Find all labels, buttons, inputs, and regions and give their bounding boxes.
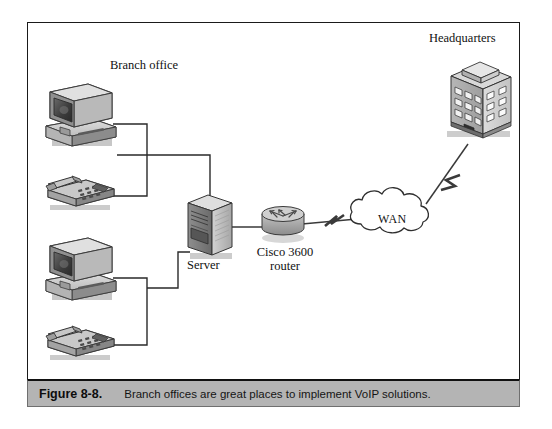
label-router: Cisco 3600 router [245, 245, 325, 273]
figure-caption-text: Branch offices are great places to imple… [124, 388, 430, 400]
figure-caption-bar: Figure 8-8. Branch offices are great pla… [27, 379, 520, 407]
label-branch-office: Branch office [110, 58, 178, 72]
label-server: Server [187, 258, 220, 272]
figure-number: Figure 8-8. [39, 387, 102, 401]
label-wan: WAN [378, 213, 407, 226]
label-headquarters: Headquarters [429, 31, 496, 45]
figure-page: Branch office Headquarters Server Cisco … [0, 0, 552, 429]
figure-frame [27, 22, 520, 405]
